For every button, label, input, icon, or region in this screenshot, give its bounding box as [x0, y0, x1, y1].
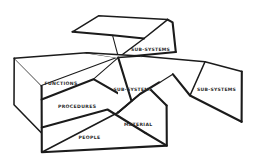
label-subsystem-right: SUB-SYSTEMS	[197, 87, 236, 92]
diagram-canvas: FUNCTIONS PROCEDURES PEOPLE MATERIAL SUB…	[0, 0, 261, 166]
label-functions: FUNCTIONS	[45, 81, 78, 86]
label-subsystem-top: SUB-SYSTEMS	[131, 47, 170, 52]
label-subsystem-center: SUB-SYSTEMS	[114, 87, 153, 92]
label-procedures: PROCEDURES	[58, 104, 96, 109]
system-box-diagram: FUNCTIONS PROCEDURES PEOPLE MATERIAL SUB…	[0, 0, 261, 166]
label-people: PEOPLE	[79, 135, 101, 140]
label-material: MATERIAL	[124, 122, 153, 127]
